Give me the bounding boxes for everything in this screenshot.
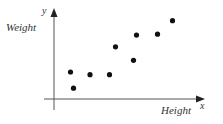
y-axis <box>51 8 58 110</box>
data-points <box>68 18 175 91</box>
data-point <box>87 72 92 77</box>
data-point <box>107 72 112 77</box>
x-axis-symbol: x <box>199 100 205 111</box>
data-point <box>71 86 76 91</box>
data-point <box>134 33 139 38</box>
scatter-chart: y Weight Height x <box>0 0 223 124</box>
y-axis-arrow-icon <box>51 8 58 17</box>
data-point <box>131 58 136 63</box>
data-point <box>68 69 73 74</box>
data-point <box>113 44 118 49</box>
x-axis-label: Height <box>160 104 192 116</box>
x-axis <box>44 96 205 103</box>
y-axis-symbol: y <box>41 5 47 16</box>
y-axis-label: Weight <box>6 21 37 33</box>
data-point <box>170 18 175 23</box>
data-point <box>155 32 160 37</box>
